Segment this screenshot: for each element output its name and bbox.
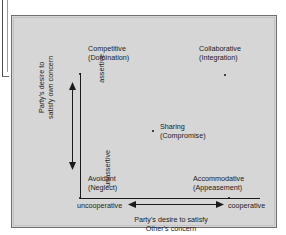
x-axis-caption-line1: Party's desire to satisfy xyxy=(80,215,262,224)
label-sharing: Sharing (Compromise) xyxy=(160,123,206,140)
label-accommodative-line2: (Appeasement) xyxy=(193,184,244,193)
y-axis-tick-assertive: assertive xyxy=(97,54,106,100)
x-axis-double-arrow-icon xyxy=(128,200,224,209)
data-point-collaborative xyxy=(224,74,226,76)
y-axis-tick-unassertive: unassertive xyxy=(103,150,112,202)
label-competitive: Competitive (Domination) xyxy=(88,45,129,62)
page-edge-line-inner xyxy=(7,0,8,72)
x-axis-tick-uncooperative: uncooperative xyxy=(77,201,122,210)
page-edge-line-bottom xyxy=(2,76,9,77)
label-collaborative-line2: (Integration) xyxy=(199,54,241,63)
data-point-sharing xyxy=(152,130,154,132)
y-axis-line xyxy=(80,73,81,199)
y-axis-caption: Party's desire to satisfy own concern xyxy=(37,37,56,137)
x-axis-tick-cooperative: cooperative xyxy=(228,201,265,210)
label-competitive-line2: (Domination) xyxy=(88,54,129,63)
y-axis-caption-line2: satisfy own concern xyxy=(46,37,55,137)
conflict-style-grid-panel: Competitive (Domination) Collaborative (… xyxy=(11,15,277,228)
x-axis-caption: Party's desire to satisfy Other's concer… xyxy=(80,215,262,234)
label-collaborative: Collaborative (Integration) xyxy=(199,45,241,62)
y-axis-double-arrow-icon xyxy=(68,82,77,170)
data-point-competitive xyxy=(79,73,81,75)
x-axis-caption-line2: Other's concern xyxy=(80,224,262,233)
label-sharing-line2: (Compromise) xyxy=(160,132,206,141)
page-edge-line-left xyxy=(2,0,3,77)
y-axis-caption-line1: Party's desire to xyxy=(37,37,46,137)
label-accommodative: Accommodative (Appeasement) xyxy=(193,175,244,192)
